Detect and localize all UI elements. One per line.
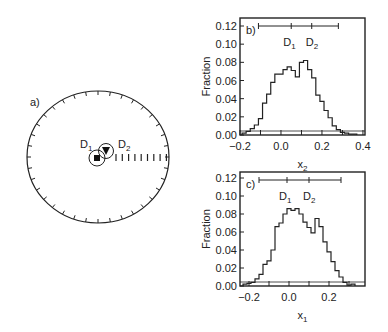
d2-triangle-marker	[102, 147, 110, 155]
circle-tick	[63, 211, 65, 214]
circle-tick	[149, 115, 152, 118]
circle-tick	[52, 106, 55, 109]
circle-tick	[110, 218, 111, 222]
y-tick-label: 0.02	[216, 111, 237, 123]
y-tick-label: 0.02	[216, 262, 237, 274]
circle-tick	[156, 124, 159, 126]
circle-tick	[44, 115, 47, 118]
circle-tick	[74, 95, 75, 99]
circle-tick	[121, 95, 122, 99]
d1-square-marker	[94, 155, 100, 161]
circle-tick	[31, 178, 35, 179]
circle-tick	[156, 188, 159, 190]
d1-text: D1	[80, 138, 93, 153]
x-tick-label: −0.2	[238, 291, 260, 303]
x-axis-label: x2	[298, 158, 309, 173]
x-tick-label: −0.2	[229, 140, 251, 152]
y-tick-label: 0.08	[216, 56, 237, 68]
y-tick-label: 0.12	[216, 20, 237, 32]
circle-tick	[149, 197, 152, 200]
panel-label: c)	[246, 178, 255, 190]
y-tick-label: 0.10	[216, 190, 237, 202]
panel-a-label: a)	[30, 96, 40, 108]
histogram-steps	[242, 61, 357, 135]
y-tick-label: 0.04	[216, 93, 237, 105]
y-axis-label: Fraction	[200, 209, 212, 249]
x-tick-label: 0.2	[321, 291, 336, 303]
circle-tick	[141, 204, 144, 207]
x-tick-label: 0.2	[314, 140, 329, 152]
circle-tick	[164, 146, 168, 147]
x-tick-label: 0.0	[273, 140, 288, 152]
x-tick-label: 0.0	[281, 291, 296, 303]
x-axis-label: x1	[298, 309, 309, 324]
y-tick-label: 0.08	[216, 208, 237, 220]
d1-label: D1	[80, 138, 93, 153]
y-tick-label: 0.00	[216, 280, 237, 292]
panel-label: b)	[246, 24, 256, 36]
y-tick-label: 0.06	[216, 75, 237, 87]
circle-tick	[74, 215, 75, 219]
circle-tick	[110, 92, 111, 96]
range-label-d1: D1	[283, 36, 296, 51]
panel-c-histogram: 0.000.020.040.060.080.100.12−0.20.00.2x1…	[200, 172, 365, 324]
figure: a) D1 D2 0.000.020.040.060.080.100.12−0.…	[0, 0, 388, 332]
y-axis-label: Fraction	[200, 57, 212, 97]
circle-tick	[141, 106, 144, 109]
panel-a-polar-diagram: a) D1 D2	[27, 91, 169, 223]
circle-tick	[28, 168, 32, 169]
circle-tick	[31, 134, 35, 135]
circle-tick	[161, 178, 165, 179]
y-tick-label: 0.12	[216, 172, 237, 184]
circle-tick	[37, 124, 40, 126]
circle-tick	[44, 197, 47, 200]
range-label-d1: D1	[279, 190, 292, 205]
x-tick-label: 0.4	[355, 140, 370, 152]
d2-text: D2	[118, 138, 131, 153]
y-tick-label: 0.04	[216, 244, 237, 256]
circle-tick	[161, 134, 165, 135]
y-tick-label: 0.10	[216, 38, 237, 50]
radial-dashes	[116, 154, 166, 161]
circle-tick	[37, 188, 40, 190]
circle-tick	[63, 100, 65, 103]
histogram-steps	[243, 209, 355, 286]
y-tick-label: 0.06	[216, 226, 237, 238]
range-label-d2: D2	[303, 190, 316, 205]
panel-b-histogram: 0.000.020.040.060.080.100.12−0.20.00.20.…	[200, 18, 371, 173]
range-label-d2: D2	[306, 36, 319, 51]
plot-frame	[240, 18, 365, 135]
circle-tick	[52, 204, 55, 207]
circle-tick	[86, 218, 87, 222]
circle-tick	[132, 211, 134, 214]
circle-tick	[28, 146, 32, 147]
circle-tick	[121, 215, 122, 219]
circle-tick	[132, 100, 134, 103]
d2-label: D2	[118, 138, 131, 153]
circle-tick	[164, 168, 168, 169]
circle-tick	[86, 92, 87, 96]
